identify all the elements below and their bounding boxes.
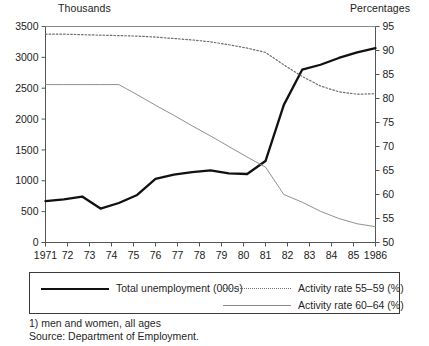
chart-legend: Total unemployment (000s) Activity rate … xyxy=(29,272,400,314)
right-tick-label: 70 xyxy=(383,140,395,152)
x-tick-label: 77 xyxy=(172,249,184,261)
legend-item-activity-rate-55-59: Activity rate 55–59 (%) xyxy=(223,280,404,296)
chart-page: Thousands Percentages 050010001500200025… xyxy=(0,0,429,346)
x-tick-label: 83 xyxy=(304,249,316,261)
left-tick-label: 1500 xyxy=(15,144,39,156)
left-tick-label: 1000 xyxy=(15,174,39,186)
footnote-line-2: Source: Department of Employment. xyxy=(29,330,419,343)
series-line-1 xyxy=(46,34,376,94)
right-tick-label: 55 xyxy=(383,212,395,224)
x-tick-label: 85 xyxy=(348,249,360,261)
right-tick-label: 75 xyxy=(383,116,395,128)
plot-area: 0500100015002000250030003500505560657075… xyxy=(0,0,429,270)
right-tick-label: 50 xyxy=(383,236,395,248)
x-tick-label: 81 xyxy=(260,249,272,261)
legend-label: Activity rate 60–64 (%) xyxy=(298,299,404,311)
x-tick-label: 84 xyxy=(326,249,338,261)
chart-svg: 0500100015002000250030003500505560657075… xyxy=(0,0,429,270)
x-tick-label: 1986 xyxy=(364,249,388,261)
x-tick-label: 74 xyxy=(106,249,118,261)
x-tick-label: 79 xyxy=(216,249,228,261)
x-tick-label: 76 xyxy=(150,249,162,261)
legend-swatch-thick-solid-icon xyxy=(41,283,109,293)
legend-item-total-unemployment: Total unemployment (000s) xyxy=(41,280,243,296)
axes-group xyxy=(42,27,380,247)
x-tick-label: 82 xyxy=(282,249,294,261)
left-tick-label: 2500 xyxy=(15,82,39,94)
x-tick-label: 73 xyxy=(84,249,96,261)
legend-swatch-dotted-icon xyxy=(223,283,291,293)
x-tick-label: 72 xyxy=(62,249,74,261)
right-tick-label: 60 xyxy=(383,188,395,200)
x-tick-label: 80 xyxy=(238,249,250,261)
x-tick-label: 75 xyxy=(128,249,140,261)
series-group xyxy=(46,34,376,226)
legend-label: Activity rate 55–59 (%) xyxy=(298,282,404,294)
right-tick-label: 90 xyxy=(383,44,395,56)
series-line-0 xyxy=(46,48,376,208)
footnote-line-1: 1) men and women, all ages xyxy=(29,317,419,330)
x-tick-label: 1971 xyxy=(34,249,58,261)
tick-labels-group: 0500100015002000250030003500505560657075… xyxy=(15,20,394,260)
footnote: 1) men and women, all ages Source: Depar… xyxy=(29,317,419,342)
left-tick-label: 500 xyxy=(21,205,39,217)
right-tick-label: 80 xyxy=(383,92,395,104)
right-tick-label: 85 xyxy=(383,68,395,80)
left-tick-label: 2000 xyxy=(15,113,39,125)
left-tick-label: 3500 xyxy=(15,20,39,32)
right-tick-label: 65 xyxy=(383,164,395,176)
legend-swatch-thin-solid-icon xyxy=(223,300,291,310)
left-tick-label: 0 xyxy=(33,236,39,248)
legend-item-activity-rate-60-64: Activity rate 60–64 (%) xyxy=(223,297,404,313)
right-tick-label: 95 xyxy=(383,20,395,32)
left-tick-label: 3000 xyxy=(15,51,39,63)
x-tick-label: 78 xyxy=(194,249,206,261)
